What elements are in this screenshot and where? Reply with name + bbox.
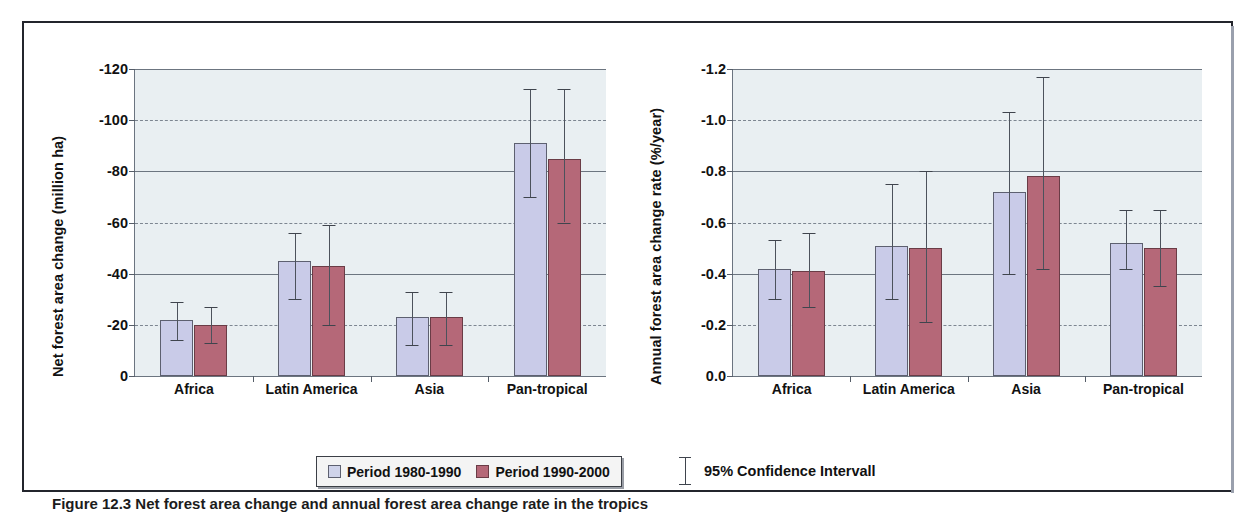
y-axis-tick-mark — [129, 325, 135, 326]
error-bar-cap — [885, 184, 898, 185]
error-bar-cap — [802, 233, 815, 234]
y-axis-tick-label: 0.0 — [706, 368, 726, 384]
legend-item-period-1990-2000: Period 1990-2000 — [476, 464, 609, 480]
x-axis-category-label: Latin America — [863, 381, 955, 397]
error-bar-cap — [802, 307, 815, 308]
error-bar-cap — [322, 225, 335, 226]
gridline — [135, 69, 606, 70]
y-axis-tick-mark — [727, 69, 733, 70]
figure-frame: Net forest area change (million ha) -120… — [22, 21, 1233, 492]
error-bar — [1009, 112, 1010, 273]
gridline — [733, 171, 1202, 172]
chart-panel-net-forest-area-change: Net forest area change (million ha) -120… — [24, 23, 624, 453]
confidence-interval-key: 95% Confidence Intervall — [679, 457, 876, 485]
error-bar-cap — [1003, 274, 1016, 275]
legend-label-period-1990-2000: Period 1990-2000 — [495, 464, 609, 480]
error-bar — [530, 89, 531, 196]
error-bar-cap — [1037, 269, 1050, 270]
y-axis-tick-label: -0.6 — [701, 215, 726, 231]
legend-item-period-1980-1990: Period 1980-1990 — [328, 464, 461, 480]
x-axis-tick-mark — [850, 376, 851, 382]
y-axis-tick-mark — [727, 223, 733, 224]
error-bar-cap — [1154, 286, 1167, 287]
error-bar-cap — [768, 299, 781, 300]
x-axis-category-label: Asia — [415, 381, 445, 397]
y-axis-tick-label: -120 — [99, 61, 128, 77]
error-bar-cap — [885, 299, 898, 300]
error-bar — [446, 292, 447, 346]
error-bar-cap — [288, 233, 301, 234]
error-bar-cap — [524, 197, 537, 198]
error-bar — [329, 225, 330, 325]
error-bar-cap — [524, 89, 537, 90]
error-bar-cap — [170, 340, 183, 341]
plot-area-right: -1.2-1.0-0.8-0.6-0.4-0.20.0AfricaLatin A… — [732, 69, 1202, 377]
error-bar-cap — [1120, 269, 1133, 270]
y-axis-tick-mark — [129, 223, 135, 224]
y-axis-tick-label: -40 — [107, 266, 128, 282]
error-bar — [892, 184, 893, 299]
error-bar-cap — [406, 292, 419, 293]
error-bar-cap — [558, 89, 571, 90]
error-bar-cap — [406, 345, 419, 346]
y-axis-title-right: Annual forest area change rate (%/year) — [648, 108, 664, 385]
gridline — [733, 223, 1202, 224]
x-axis-category-label: Pan-tropical — [507, 381, 588, 397]
legend-label-period-1980-1990: Period 1980-1990 — [347, 464, 461, 480]
x-axis-category-label: Pan-tropical — [1103, 381, 1184, 397]
x-axis-category-label: Africa — [174, 381, 214, 397]
x-axis-category-label: Asia — [1011, 381, 1041, 397]
error-bar-cap — [919, 171, 932, 172]
error-bar-cap — [204, 307, 217, 308]
legend-swatch-period-1990-2000 — [476, 465, 489, 478]
y-axis-tick-label: -80 — [107, 163, 128, 179]
y-axis-tick-mark — [129, 171, 135, 172]
legend-swatch-period-1980-1990 — [328, 465, 341, 478]
y-axis-tick-label: -100 — [99, 112, 128, 128]
error-bar — [412, 292, 413, 346]
y-axis-tick-mark — [129, 376, 135, 377]
error-bar — [177, 302, 178, 340]
error-bar-cap — [288, 299, 301, 300]
y-axis-tick-mark — [727, 274, 733, 275]
error-bar — [211, 307, 212, 343]
y-axis-tick-label: -0.8 — [701, 163, 726, 179]
error-bar — [1160, 210, 1161, 287]
error-bar — [926, 171, 927, 322]
y-axis-tick-mark — [129, 120, 135, 121]
error-bar — [1126, 210, 1127, 269]
error-bar-cap — [204, 343, 217, 344]
y-axis-tick-mark — [727, 325, 733, 326]
x-axis-category-label: Africa — [772, 381, 812, 397]
y-axis-tick-label: -1.2 — [701, 61, 726, 77]
y-axis-tick-mark — [129, 69, 135, 70]
plot-area-left: -120-100-80-60-40-200AfricaLatin America… — [134, 69, 606, 377]
error-bar — [809, 233, 810, 307]
y-axis-tick-mark — [727, 120, 733, 121]
y-axis-title-left: Net forest area change (million ha) — [50, 136, 66, 377]
legend: Period 1980-1990 Period 1990-2000 — [316, 456, 622, 487]
error-bar-cap — [440, 292, 453, 293]
y-axis-tick-mark — [727, 376, 733, 377]
figure-caption: Figure 12.3 Net forest area change and a… — [52, 495, 648, 512]
y-axis-tick-label: -60 — [107, 215, 128, 231]
y-axis-tick-label: -0.2 — [701, 317, 726, 333]
confidence-interval-label: 95% Confidence Intervall — [704, 463, 876, 479]
error-bar-cap — [1003, 112, 1016, 113]
gridline — [733, 120, 1202, 121]
y-axis-tick-mark — [129, 274, 135, 275]
error-bar-icon — [679, 457, 691, 485]
error-bar-cap — [322, 325, 335, 326]
error-bar-cap — [919, 322, 932, 323]
chart-panel-annual-change-rate: Annual forest area change rate (%/year) … — [624, 23, 1233, 453]
x-axis-tick-mark — [968, 376, 969, 382]
error-bar — [564, 89, 565, 222]
x-axis-tick-mark — [488, 376, 489, 382]
y-axis-tick-label: -20 — [107, 317, 128, 333]
error-bar-cap — [1037, 77, 1050, 78]
error-bar-cap — [768, 240, 781, 241]
y-axis-tick-label: -1.0 — [701, 112, 726, 128]
x-axis-tick-mark — [253, 376, 254, 382]
y-axis-tick-mark — [727, 171, 733, 172]
